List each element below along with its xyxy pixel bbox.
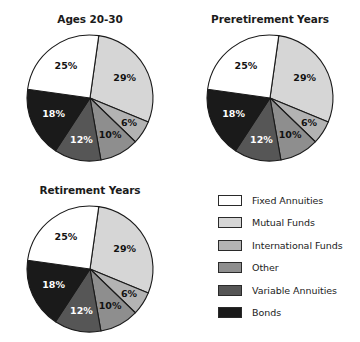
legend-swatch [218,307,242,318]
slice-value-label: 10% [99,300,122,311]
pie-graphic: 29%6%10%12%18%25% [0,200,180,340]
slice-value-label: 29% [113,243,136,254]
slice-value-label: 6% [301,117,318,128]
legend-swatch [218,285,242,296]
legend-swatch [218,217,242,228]
slice-value-label: 25% [55,60,78,71]
chart-title: Ages 20-30 [0,12,180,26]
slice-value-label: 12% [70,134,93,145]
legend-item: Variable Annuities [218,279,360,302]
chart-title: Retirement Years [0,183,180,197]
legend-item: Bonds [218,302,360,325]
legend-item: Mutual Funds [218,212,360,235]
slice-value-label: 12% [70,305,93,316]
slice-value-label: 18% [42,108,65,119]
pie-canvas: 29%6%10%12%18%25% [0,29,180,169]
slice-value-label: 6% [121,288,138,299]
slice-value-label: 12% [250,134,273,145]
legend-item-label: Bonds [252,307,281,318]
legend-item-label: Mutual Funds [252,217,315,228]
legend-swatch [218,195,242,206]
pie-chart-retirement-years: Retirement Years 29%6%10%12%18%25% [0,183,180,340]
legend-item-label: Variable Annuities [252,285,337,296]
legend-swatch [218,262,242,273]
legend-item: Fixed Annuities [218,189,360,212]
legend-swatch [218,240,242,251]
slice-value-label: 25% [235,60,258,71]
slice-value-label: 6% [121,117,138,128]
legend-item-label: Other [252,262,279,273]
legend-item-label: Fixed Annuities [252,195,323,206]
slice-value-label: 18% [42,279,65,290]
slice-value-label: 10% [279,129,302,140]
pie-canvas: 29%6%10%12%18%25% [0,200,180,340]
slice-value-label: 25% [55,231,78,242]
legend-item-label: International Funds [252,240,343,251]
legend-item: International Funds [218,234,360,257]
slice-value-label: 29% [113,72,136,83]
chart-title: Preretirement Years [180,12,360,26]
legend-item: Other [218,257,360,280]
pie-chart-preretirement-years: Preretirement Years 29%6%10%12%18%25% [180,12,360,169]
pie-graphic: 29%6%10%12%18%25% [0,29,180,169]
pie-chart-ages-20-30: Ages 20-30 29%6%10%12%18%25% [0,12,180,169]
slice-value-label: 29% [293,72,316,83]
slice-value-label: 10% [99,129,122,140]
slice-value-label: 18% [222,108,245,119]
chart-legend: Fixed AnnuitiesMutual FundsInternational… [218,189,360,324]
pie-graphic: 29%6%10%12%18%25% [180,29,360,169]
pie-canvas: 29%6%10%12%18%25% [180,29,360,169]
